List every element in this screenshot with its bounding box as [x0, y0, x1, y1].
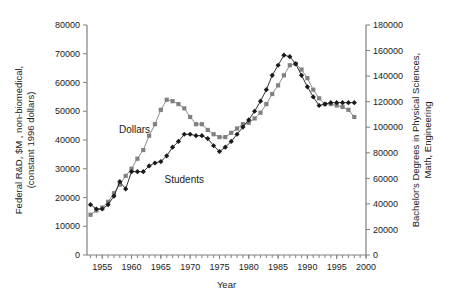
- chart-figure: 1955196019651970197519801985199019952000…: [0, 0, 453, 300]
- data-point-students: [305, 84, 310, 89]
- data-point-dollars: [182, 106, 186, 110]
- data-point-students: [252, 109, 257, 114]
- right-y-tick-label: 120000: [373, 97, 403, 107]
- data-point-dollars: [340, 105, 344, 109]
- data-point-dollars: [217, 135, 221, 139]
- data-point-dollars: [88, 213, 92, 217]
- data-point-dollars: [153, 122, 157, 126]
- left-y-tick-label: 40000: [55, 135, 80, 145]
- data-point-students: [311, 94, 316, 99]
- left-y-tick-label: 60000: [55, 78, 80, 88]
- left-axis-label-line1: Federal R&D, $M , non-biomedical,: [13, 66, 24, 214]
- x-tick-label: 1980: [239, 262, 259, 272]
- right-y-tick-label: 20000: [373, 225, 398, 235]
- data-point-students: [152, 160, 157, 165]
- x-tick-label: 2000: [356, 262, 376, 272]
- data-point-dollars: [170, 99, 174, 103]
- data-point-dollars: [282, 73, 286, 77]
- left-y-tick-label: 30000: [55, 164, 80, 174]
- data-point-dollars: [288, 63, 292, 67]
- series-annotation-dollars: Dollars: [119, 124, 150, 135]
- data-point-students: [281, 53, 286, 58]
- left-y-tick-label: 80000: [55, 20, 80, 30]
- data-point-dollars: [229, 131, 233, 135]
- data-point-dollars: [299, 67, 303, 71]
- right-axis-label-line1: Bachelor's Degrees in Physical Sciences,: [410, 53, 421, 227]
- x-tick-label: 1995: [327, 262, 347, 272]
- left-y-tick-label: 70000: [55, 49, 80, 59]
- data-point-dollars: [188, 115, 192, 119]
- data-point-students: [199, 133, 204, 138]
- data-point-students: [317, 103, 322, 108]
- right-y-tick-label: 160000: [373, 46, 403, 56]
- data-point-students: [340, 100, 345, 105]
- x-tick-label: 1965: [151, 262, 171, 272]
- data-point-dollars: [124, 174, 128, 178]
- data-point-dollars: [352, 115, 356, 119]
- right-y-tick-label: 0: [373, 250, 378, 260]
- data-point-dollars: [223, 135, 227, 139]
- data-point-students: [299, 73, 304, 78]
- right-y-tick-label: 140000: [373, 71, 403, 81]
- data-point-dollars: [311, 88, 315, 92]
- data-point-dollars: [346, 108, 350, 112]
- data-point-dollars: [305, 76, 309, 80]
- data-point-students: [193, 133, 198, 138]
- series-line-dollars: [91, 64, 355, 215]
- x-tick-label: 1955: [92, 262, 112, 272]
- left-y-tick-label: 10000: [55, 221, 80, 231]
- data-point-dollars: [194, 122, 198, 126]
- data-point-dollars: [235, 126, 239, 130]
- right-y-tick-label: 80000: [373, 148, 398, 158]
- x-tick-label: 1985: [268, 262, 288, 272]
- x-axis-label: Year: [217, 279, 236, 290]
- data-point-dollars: [253, 116, 257, 120]
- data-point-dollars: [270, 92, 274, 96]
- data-point-dollars: [135, 157, 139, 161]
- right-y-tick-label: 40000: [373, 199, 398, 209]
- data-point-dollars: [165, 98, 169, 102]
- left-axis-label-line2: (constant 1996 dollars): [25, 92, 36, 189]
- data-point-dollars: [176, 102, 180, 106]
- data-point-students: [346, 100, 351, 105]
- data-point-students: [135, 169, 140, 174]
- x-tick-label: 1975: [209, 262, 229, 272]
- data-point-dollars: [200, 122, 204, 126]
- left-y-tick-label: 50000: [55, 106, 80, 116]
- data-point-students: [352, 100, 357, 105]
- left-y-tick-label: 0: [75, 250, 80, 260]
- data-point-dollars: [264, 102, 268, 106]
- data-point-dollars: [317, 96, 321, 100]
- data-point-dollars: [258, 111, 262, 115]
- data-point-students: [258, 99, 263, 104]
- series-annotation-students: Students: [165, 174, 204, 185]
- right-y-tick-label: 180000: [373, 20, 403, 30]
- data-point-students: [188, 132, 193, 137]
- x-tick-label: 1990: [297, 262, 317, 272]
- data-point-students: [275, 63, 280, 68]
- right-y-tick-label: 60000: [373, 174, 398, 184]
- x-tick-label: 1970: [180, 262, 200, 272]
- data-point-dollars: [141, 148, 145, 152]
- data-point-students: [270, 73, 275, 78]
- data-point-dollars: [212, 132, 216, 136]
- right-axis-label-line2: Math, Engineering: [422, 101, 433, 178]
- right-y-tick-label: 100000: [373, 122, 403, 132]
- left-y-tick-label: 20000: [55, 193, 80, 203]
- data-point-dollars: [206, 128, 210, 132]
- data-point-dollars: [159, 108, 163, 112]
- dual-axis-line-chart: 1955196019651970197519801985199019952000…: [0, 0, 453, 300]
- data-point-students: [264, 87, 269, 92]
- x-tick-label: 1960: [122, 262, 142, 272]
- data-point-dollars: [276, 83, 280, 87]
